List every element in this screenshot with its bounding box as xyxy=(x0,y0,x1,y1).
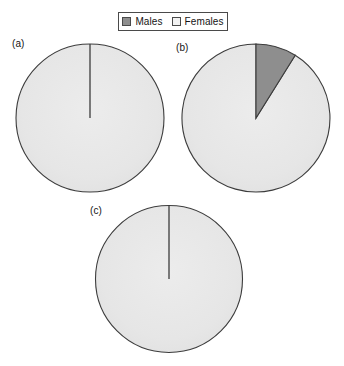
legend-swatch-males-icon xyxy=(122,17,131,26)
pie-chart-a xyxy=(14,42,166,194)
legend-swatch-females-icon xyxy=(172,17,181,26)
legend-entry-females: Females xyxy=(172,17,224,27)
pie-chart-b xyxy=(180,42,332,194)
pie-panel-b: (b) xyxy=(172,36,344,204)
figure-pie-charts: Males Females (a) (b) xyxy=(0,0,344,366)
pie-panel-a: (a) xyxy=(0,36,172,204)
pie-panel-c: (c) xyxy=(86,197,266,365)
pie-chart-c xyxy=(93,203,245,355)
legend-label-females: Females xyxy=(185,17,224,27)
legend-entry-males: Males xyxy=(122,17,162,27)
legend-label-males: Males xyxy=(135,17,162,27)
legend: Males Females xyxy=(118,12,228,31)
